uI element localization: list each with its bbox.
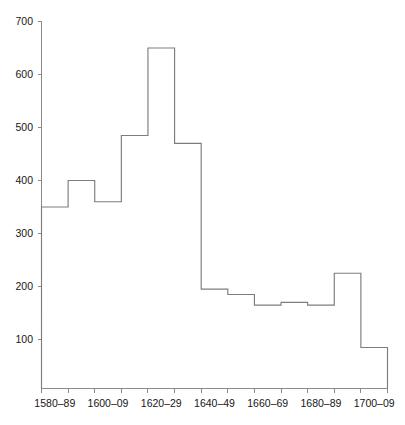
x-tick-label: 1680–89 [301, 397, 342, 409]
x-tick-label: 1620–29 [141, 397, 182, 409]
x-axis-tick-labels: 1580–891600–091620–291640–491660–691680–… [34, 397, 394, 409]
x-tick-label: 1600–09 [88, 397, 129, 409]
y-tick-label: 200 [15, 280, 33, 292]
chart-plot-area: 700 600 500 400 300 200 100 1580–891600–… [0, 0, 405, 425]
x-tick-label: 1640–49 [194, 397, 235, 409]
y-tick-label: 600 [15, 68, 33, 80]
x-tick-label: 1580–89 [34, 397, 75, 409]
y-tick-label: 300 [15, 227, 33, 239]
y-axis-ticks [38, 22, 42, 340]
histogram-chart: 700 600 500 400 300 200 100 1580–891600–… [0, 0, 405, 425]
y-tick-label: 100 [15, 333, 33, 345]
y-tick-label: 700 [15, 15, 33, 27]
x-tick-label: 1700–09 [354, 397, 395, 409]
x-tick-label: 1660–69 [247, 397, 288, 409]
y-tick-label: 500 [15, 121, 33, 133]
histogram-step-outline [42, 48, 388, 389]
y-tick-label: 400 [15, 174, 33, 186]
y-axis-tick-labels: 700 600 500 400 300 200 100 [15, 15, 33, 345]
x-axis-ticks [42, 389, 388, 393]
